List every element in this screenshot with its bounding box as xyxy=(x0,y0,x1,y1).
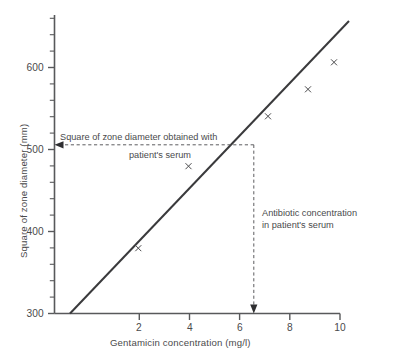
x-tick-label-6: 6 xyxy=(225,322,255,333)
regression-line xyxy=(70,21,349,314)
data-point xyxy=(331,59,337,65)
x-tick-label-8: 8 xyxy=(275,322,305,333)
data-point xyxy=(265,113,271,119)
x-tick-label-10: 10 xyxy=(325,322,355,333)
data-point xyxy=(186,163,192,169)
plot-canvas xyxy=(0,0,393,353)
annotation-zone-square-line2: patient's serum xyxy=(60,149,260,161)
chart-figure: 600 500 400 300 2 4 6 8 10 Square of zon… xyxy=(0,0,393,353)
annotation-antibiotic-conc-line1: Antibiotic concentration xyxy=(262,207,357,219)
x-tick-label-4: 4 xyxy=(175,322,205,333)
y-tick-label-300: 300 xyxy=(14,308,44,319)
y-axis-title: Square of zone diameter (mm) xyxy=(18,124,29,258)
y-tick-label-600: 600 xyxy=(14,62,44,73)
x-axis-title: Gentamicin concentration (mg/l) xyxy=(110,337,251,348)
y-axis-major-ticks xyxy=(48,68,55,314)
annotation-zone-square-line1: Square of zone diameter obtained with xyxy=(60,131,217,143)
data-point xyxy=(305,86,311,92)
annotation-antibiotic-conc-line2: in patient's serum xyxy=(262,219,334,231)
down-arrow-head xyxy=(250,305,257,314)
x-axis-major-ticks xyxy=(139,314,340,321)
data-point xyxy=(135,245,141,251)
x-tick-label-2: 2 xyxy=(124,322,154,333)
